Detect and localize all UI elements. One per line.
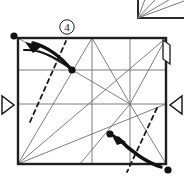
crease-center-to-topright xyxy=(130,38,166,104)
step-number-badge: 4 xyxy=(60,20,74,34)
previous-fragment-ray-4 xyxy=(138,1,184,18)
dot-top-left-corner xyxy=(10,32,17,39)
crease-topmid-to-center xyxy=(92,38,130,104)
crease-bl-to-top-mid xyxy=(18,38,92,164)
dashed-fold-lines-group xyxy=(30,41,157,172)
fold-arrow-lower-right xyxy=(110,132,161,167)
crease-center-to-bottom xyxy=(80,104,130,164)
right-edge-flap xyxy=(163,40,170,64)
origami-step-figure: 4 xyxy=(0,0,184,176)
origami-diagram-canvas: 4 xyxy=(0,0,184,176)
edge-marker-left xyxy=(2,96,14,114)
dot-upper-crease-point xyxy=(68,66,75,73)
crease-lines-group xyxy=(18,38,166,164)
previous-step-corner-fragment xyxy=(138,0,184,18)
dashed-fold-upper-left xyxy=(30,41,66,122)
edge-marker-right xyxy=(170,96,182,114)
dot-bottom-right-corner xyxy=(164,166,171,173)
dot-lower-crease-point xyxy=(106,130,113,137)
step-number-text: 4 xyxy=(64,21,70,33)
